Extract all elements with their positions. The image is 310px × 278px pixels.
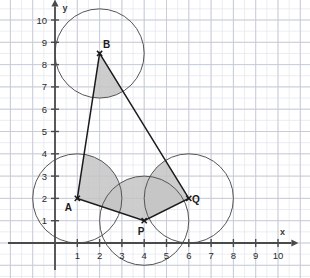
x-tick-label-6: 6 (186, 250, 191, 261)
y-axis-label: y (62, 3, 67, 13)
y-tick-label-4: 4 (42, 148, 47, 159)
x-tick-label-1: 1 (75, 250, 80, 261)
x-tick-label-3: 3 (119, 250, 124, 261)
x-tick-label-9: 9 (253, 250, 258, 261)
x-tick-label-5: 5 (164, 250, 169, 261)
geometry-figure: 1234567891012345678910 ABPQ xy (0, 0, 310, 278)
x-tick-label-8: 8 (231, 250, 236, 261)
coordinate-plane-svg: 1234567891012345678910 ABPQ xy (0, 0, 310, 278)
x-tick-label-10: 10 (273, 250, 284, 261)
x-tick-label-7: 7 (208, 250, 213, 261)
y-tick-label-5: 5 (42, 126, 47, 137)
y-tick-label-7: 7 (42, 81, 47, 92)
x-axis-label: x (280, 227, 285, 237)
y-tick-label-1: 1 (42, 215, 47, 226)
y-tick-label-10: 10 (36, 15, 47, 26)
vertex-label-b: B (103, 39, 110, 50)
x-tick-label-4: 4 (142, 250, 147, 261)
y-tick-label-9: 9 (42, 37, 47, 48)
y-tick-label-6: 6 (42, 104, 47, 115)
vertex-label-q: Q (192, 194, 200, 205)
y-tick-label-8: 8 (42, 59, 47, 70)
vertex-label-p: P (138, 226, 145, 237)
y-tick-label-3: 3 (42, 171, 47, 182)
vertex-label-a: A (65, 202, 72, 213)
x-tick-label-2: 2 (97, 250, 102, 261)
y-tick-label-2: 2 (42, 193, 47, 204)
